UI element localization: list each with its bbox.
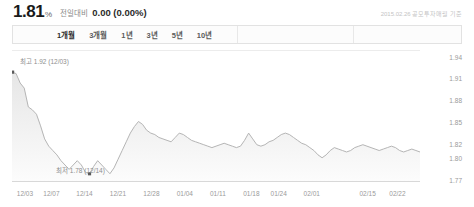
high-point-marker [12, 71, 14, 74]
x-axis-tick: 01/24 [271, 190, 287, 198]
tabbar-divider-1 [237, 26, 238, 43]
tab-10year[interactable]: 10년 [190, 26, 219, 43]
chart-header: 1.81 % 전일대비 0.00 (0.00%) 2015.02.26 공모투자… [0, 0, 474, 24]
tab-1year[interactable]: 1년 [114, 26, 139, 43]
x-axis-tick: 02/01 [304, 190, 320, 198]
low-annotation: 최저 1.78 (12/14) [56, 167, 105, 175]
tab-10year-label: 10년 [197, 29, 212, 40]
x-axis-tick: 12/28 [143, 190, 159, 198]
x-axis-tick: 12/14 [76, 190, 92, 198]
timestamp: 2015.02.26 공모투자매월 기준 [381, 9, 462, 18]
tab-3year-label: 3년 [147, 29, 158, 40]
x-axis-tick: 01/04 [177, 190, 193, 198]
tab-3month[interactable]: 3개월 [82, 26, 114, 43]
price-summary: 1.81 % 전일대비 0.00 (0.00%) [13, 3, 147, 20]
x-axis-tick: 01/18 [243, 190, 259, 198]
price-chart[interactable]: 최고 1.92 (12/03) 최저 1.78 (12/14) 1.941.91… [12, 50, 462, 192]
y-axis-tick: 1.94 [428, 54, 462, 62]
x-axis: 12/0312/0712/1412/2112/2801/0401/1101/18… [12, 190, 462, 202]
y-axis-tick: 1.88 [428, 97, 462, 105]
current-price: 1.81 [13, 3, 44, 20]
high-annotation: 최고 1.92 (12/03) [20, 58, 69, 66]
tabbar-divider-2 [353, 26, 354, 43]
x-axis-tick: 02/15 [360, 190, 376, 198]
tab-3month-label: 3개월 [89, 29, 107, 40]
period-tabbar: 1개월 3개월 1년 3년 5년 10년 [12, 25, 462, 44]
price-unit: % [45, 10, 52, 20]
tab-1month-label: 1개월 [57, 29, 75, 40]
tab-3year[interactable]: 3년 [140, 26, 165, 43]
y-axis-tick: 1.77 [428, 177, 462, 185]
y-axis-tick: 1.80 [428, 155, 462, 163]
tab-1year-label: 1년 [121, 29, 132, 40]
y-axis-tick: 1.85 [428, 119, 462, 127]
tab-5year[interactable]: 5년 [165, 26, 190, 43]
x-axis-tick: 12/07 [43, 190, 59, 198]
y-axis-tick: 1.82 [428, 141, 462, 149]
x-axis-tick: 01/11 [210, 190, 226, 198]
tab-5year-label: 5년 [172, 29, 183, 40]
x-axis-tick: 02/22 [389, 190, 405, 198]
period-tab-group: 1개월 3개월 1년 3년 5년 10년 [50, 26, 219, 43]
compare-label: 전일대비 [60, 9, 88, 19]
x-axis-tick: 12/21 [110, 190, 126, 198]
y-axis-tick: 1.91 [428, 75, 462, 83]
x-axis-tick: 12/03 [17, 190, 33, 198]
tab-1month[interactable]: 1개월 [50, 26, 82, 43]
compare-value: 0.00 (0.00%) [92, 7, 146, 18]
